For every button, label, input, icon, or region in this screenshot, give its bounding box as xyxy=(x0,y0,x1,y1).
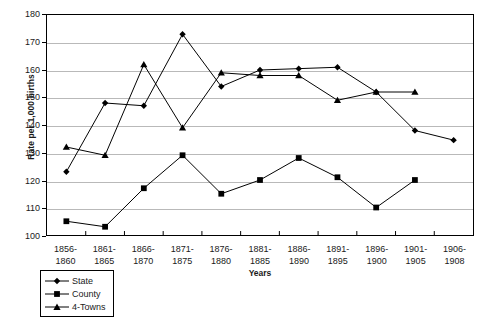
legend-item-4-towns[interactable]: 4-Towns xyxy=(44,300,106,313)
data-point-square xyxy=(412,177,418,183)
x-axis-tick-label: 1881-1885 xyxy=(248,244,271,267)
x-axis-tick-label: 1856-1860 xyxy=(54,244,77,267)
square-marker-icon xyxy=(44,288,70,300)
legend-label: 4-Towns xyxy=(72,302,106,312)
series-line xyxy=(66,155,415,227)
line-chart: Rate per 1,000 births 180170160150140130… xyxy=(0,0,488,320)
data-point-diamond xyxy=(54,277,60,283)
data-point-square xyxy=(180,152,186,158)
data-point-square xyxy=(63,218,69,224)
x-axis-labels: 1856-18601861-18651866-18701871-18751876… xyxy=(46,240,474,270)
legend-label: State xyxy=(72,276,93,286)
data-point-diamond xyxy=(63,169,69,175)
plot-area xyxy=(46,14,474,236)
chart-legend: StateCounty4-Towns xyxy=(40,270,114,317)
x-axis-tick-label: 1896-1900 xyxy=(365,244,388,267)
y-axis-tick-label: 110 xyxy=(26,203,40,213)
data-point-triangle xyxy=(63,143,70,149)
data-point-diamond xyxy=(102,100,108,106)
legend-item-state[interactable]: State xyxy=(44,274,106,287)
legend-item-county[interactable]: County xyxy=(44,287,106,300)
x-axis-tick-label: 1871-1875 xyxy=(171,244,194,267)
data-point-diamond xyxy=(334,64,340,70)
series-4-towns xyxy=(63,61,419,158)
data-point-square xyxy=(373,205,379,211)
data-point-diamond xyxy=(296,65,302,71)
x-axis-tick-label: 1891-1895 xyxy=(326,244,349,267)
y-axis-tick-label: 140 xyxy=(25,120,40,130)
y-axis-tick-label: 160 xyxy=(25,65,40,75)
data-point-triangle xyxy=(140,61,147,67)
triangle-marker-icon xyxy=(44,301,70,313)
legend-label: County xyxy=(72,289,101,299)
x-axis-tick-label: 1866-1870 xyxy=(132,244,155,267)
y-axis-labels: 180170160150140130120110100 xyxy=(0,0,46,236)
y-axis-tick xyxy=(42,236,46,237)
data-point-square xyxy=(54,291,60,297)
diamond-marker-icon xyxy=(44,275,70,287)
x-axis-tick-label: 1861-1865 xyxy=(93,244,116,267)
data-point-diamond xyxy=(450,137,456,143)
y-axis-tick-label: 130 xyxy=(25,148,40,158)
data-point-diamond xyxy=(141,103,147,109)
data-point-triangle xyxy=(179,124,186,130)
data-point-square xyxy=(141,185,147,191)
y-axis-tick-label: 180 xyxy=(25,9,40,19)
series-county xyxy=(63,152,417,229)
series-state xyxy=(63,31,457,175)
y-axis-tick-label: 150 xyxy=(25,92,40,102)
y-axis-tick-label: 100 xyxy=(25,231,40,241)
x-axis-tick-label: 1876-1880 xyxy=(210,244,233,267)
x-axis-tick-label: 1886-1890 xyxy=(287,244,310,267)
y-axis-tick-label: 170 xyxy=(25,37,40,47)
data-point-square xyxy=(218,191,224,197)
data-point-square xyxy=(102,224,108,230)
data-point-square xyxy=(335,174,341,180)
series-line xyxy=(66,34,453,172)
y-axis-tick-label: 120 xyxy=(25,176,40,186)
data-series-layer xyxy=(47,15,473,235)
x-axis-tick-label: 1906-1908 xyxy=(443,244,466,267)
data-point-square xyxy=(296,155,302,161)
data-point-triangle xyxy=(218,69,225,75)
x-axis-tick-label: 1901-1905 xyxy=(404,244,427,267)
data-point-square xyxy=(257,177,263,183)
